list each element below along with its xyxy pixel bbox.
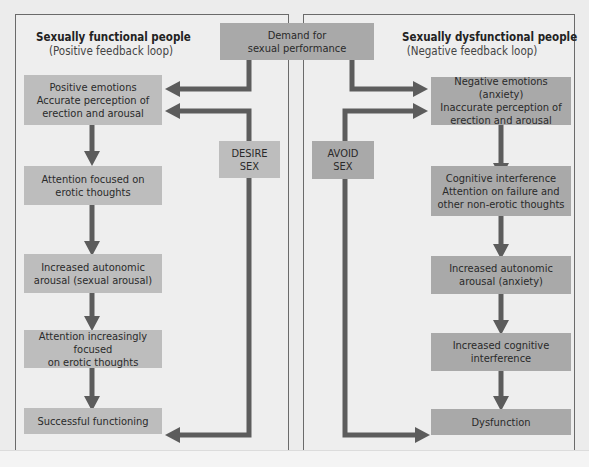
right-step-5: Dysfunction	[431, 409, 571, 435]
left-step-4: Attention increasingly focused on erotic…	[24, 330, 162, 368]
avoid-sex-box: AVOID SEX	[312, 141, 374, 179]
desire-sex-box: DESIRE SEX	[219, 141, 280, 178]
right-step-2: Cognitive interference Attention on fail…	[431, 166, 571, 216]
left-step-1: Positive emotions Accurate perception of…	[24, 75, 162, 125]
left-step-3: Increased autonomic arousal (sexual arou…	[24, 254, 162, 293]
bottom-strip	[0, 450, 589, 467]
left-panel-title: Sexually functional people (Positive fee…	[36, 30, 186, 58]
left-step-2: Attention focused on erotic thoughts	[24, 166, 162, 205]
demand-for-performance-box: Demand for sexual performance	[220, 23, 374, 60]
left-subtitle-text: (Positive feedback loop)	[36, 44, 186, 58]
right-panel-title: Sexually dysfunctional people (Negative …	[402, 30, 542, 58]
right-step-1: Negative emotions (anxiety) Inaccurate p…	[431, 77, 571, 125]
left-step-5: Successful functioning	[24, 408, 162, 434]
right-step-3: Increased autonomic arousal (anxiety)	[431, 256, 571, 294]
right-subtitle-text: (Negative feedback loop)	[402, 44, 542, 58]
left-title-text: Sexually functional people	[36, 30, 186, 44]
right-title-text: Sexually dysfunctional people	[402, 30, 542, 44]
right-step-4: Increased cognitive interference	[431, 333, 571, 371]
